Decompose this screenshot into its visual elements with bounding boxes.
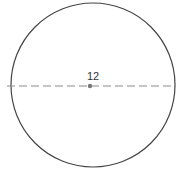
- center-point: [88, 84, 92, 88]
- center-label: 12: [87, 70, 99, 82]
- circle-outline: [11, 3, 175, 167]
- circle-diagram: 12: [0, 0, 176, 173]
